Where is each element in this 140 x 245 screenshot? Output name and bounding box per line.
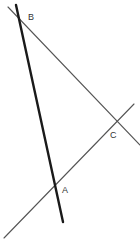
geometry-figure: B A C xyxy=(0,0,140,245)
vertex-label-a: A xyxy=(62,186,68,195)
line-ba-extended xyxy=(16,5,63,222)
line-ac-extended xyxy=(4,104,134,238)
vertex-label-c: C xyxy=(110,131,117,140)
line-bc-extended xyxy=(8,7,140,145)
figure-canvas xyxy=(0,0,140,245)
vertex-label-b: B xyxy=(28,13,34,22)
